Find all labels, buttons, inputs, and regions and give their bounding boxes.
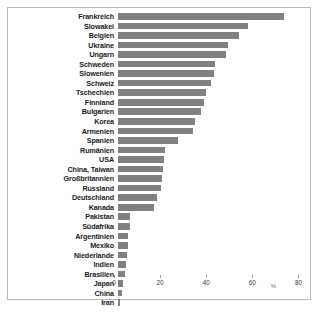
bar	[118, 42, 228, 49]
bar-cell	[118, 41, 310, 51]
bar-row: Slowakei	[8, 22, 310, 32]
bar	[118, 233, 128, 240]
bar-row: Pakistan	[8, 212, 310, 222]
bar	[118, 223, 130, 230]
category-label: Indien	[8, 260, 118, 270]
bar-cell	[118, 98, 310, 108]
category-label: Frankreich	[8, 12, 118, 22]
bar-cell	[118, 117, 310, 127]
bar-row: Ukraine	[8, 41, 310, 51]
category-label: Großbritannien	[8, 174, 118, 184]
bar	[118, 166, 163, 173]
bar-row: Kanada	[8, 203, 310, 213]
bar-row: Korea	[8, 117, 310, 127]
bar-row: Slowenien	[8, 69, 310, 79]
bar-cell	[118, 79, 310, 89]
bar-cell	[118, 88, 310, 98]
bar-cell	[118, 193, 310, 203]
bar	[118, 70, 214, 77]
bar-cell	[118, 260, 310, 270]
category-label: Kanada	[8, 203, 118, 213]
bar-row: Rumänien	[8, 146, 310, 156]
bar	[118, 99, 204, 106]
bar-cell	[118, 174, 310, 184]
category-label: Mexiko	[8, 241, 118, 251]
bar	[118, 175, 162, 182]
category-label: Slowakei	[8, 22, 118, 32]
x-axis-tick	[114, 275, 115, 278]
bar-row: Schweden	[8, 60, 310, 70]
bar	[118, 80, 211, 87]
chart-frame: FrankreichSlowakeiBelgienUkraineUngarnSc…	[7, 7, 311, 300]
bar	[118, 252, 127, 259]
bar-cell	[118, 222, 310, 232]
bar-row: Armenien	[8, 127, 310, 137]
bar	[118, 213, 130, 220]
plot-area: FrankreichSlowakeiBelgienUkraineUngarnSc…	[8, 8, 310, 299]
x-axis-tick-label: 60	[249, 279, 256, 286]
bar	[118, 128, 193, 135]
bar-cell	[118, 203, 310, 213]
bar-cell	[118, 31, 310, 41]
bar	[118, 89, 206, 96]
bar-cell	[118, 232, 310, 242]
bar-cell	[118, 184, 310, 194]
bar-cell	[118, 146, 310, 156]
bar-cell	[118, 165, 310, 175]
bar	[118, 118, 195, 125]
bar	[118, 61, 215, 68]
category-label: Schweiz	[8, 79, 118, 89]
category-label: Ukraine	[8, 41, 118, 51]
bar	[118, 23, 248, 30]
bar-row: Großbritannien	[8, 174, 310, 184]
category-label: Russland	[8, 184, 118, 194]
bar-row: Deutschland	[8, 193, 310, 203]
category-label: Bulgarien	[8, 107, 118, 117]
bar-cell	[118, 127, 310, 137]
category-label: Finnland	[8, 98, 118, 108]
bar	[118, 147, 165, 154]
bar-cell	[118, 60, 310, 70]
category-label: Deutschland	[8, 193, 118, 203]
bar	[118, 13, 284, 20]
bar-row: Indien	[8, 260, 310, 270]
bar-cell	[118, 12, 310, 22]
bar-row: Russland	[8, 184, 310, 194]
bar-row: Belgien	[8, 31, 310, 41]
bar-cell	[118, 22, 310, 32]
bar	[118, 194, 157, 201]
category-label: Schweden	[8, 60, 118, 70]
category-label: China, Taiwan	[8, 165, 118, 175]
category-label: USA	[8, 155, 118, 165]
bar	[118, 204, 154, 211]
bar	[118, 156, 164, 163]
category-label: Iran	[8, 298, 118, 308]
bar-row: Iran	[8, 298, 310, 308]
bar	[118, 261, 126, 268]
bar-row: Spanien	[8, 136, 310, 146]
bar-row: Finnland	[8, 98, 310, 108]
bar-row: Südafrika	[8, 222, 310, 232]
bar-cell	[118, 107, 310, 117]
bar	[118, 185, 161, 192]
category-label: Rumänien	[8, 146, 118, 156]
x-axis-tick-label: 20	[157, 279, 164, 286]
category-label: Slowenien	[8, 69, 118, 79]
x-axis-tick	[298, 275, 299, 278]
bar-row: USA	[8, 155, 310, 165]
bar-row: Argentinien	[8, 232, 310, 242]
bar-row: Schweiz	[8, 79, 310, 89]
bar-cell	[118, 298, 310, 308]
bar	[118, 32, 239, 39]
category-label: Pakistan	[8, 212, 118, 222]
bar	[118, 51, 226, 58]
bar-row: Niederlande	[8, 251, 310, 261]
x-axis-tick-label: 80	[295, 279, 302, 286]
bar-cell	[118, 50, 310, 60]
bar-row: Mexiko	[8, 241, 310, 251]
category-label: Korea	[8, 117, 118, 127]
bar-cell	[118, 69, 310, 79]
category-label: Tschechien	[8, 88, 118, 98]
bar-cell	[118, 241, 310, 251]
x-axis-tick	[252, 275, 253, 278]
